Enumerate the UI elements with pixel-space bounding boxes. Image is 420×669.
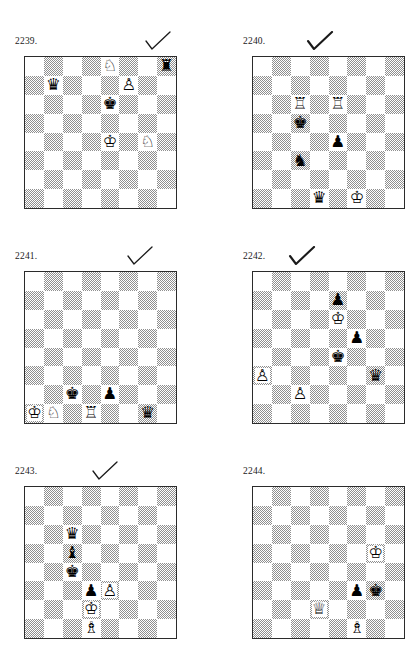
square-h8[interactable]: ♜ [157, 57, 176, 76]
chessboard[interactable]: ♔♟♚♕♗ [252, 486, 405, 639]
square-g1[interactable] [138, 189, 157, 208]
square-d4[interactable] [310, 563, 329, 582]
square-c1[interactable] [63, 404, 82, 423]
square-c6[interactable]: ♖ [291, 95, 310, 114]
square-d3[interactable] [82, 366, 101, 385]
square-f6[interactable] [347, 525, 366, 544]
square-b2[interactable] [272, 385, 291, 404]
square-b3[interactable] [44, 581, 63, 600]
square-b1[interactable] [272, 189, 291, 208]
piece-black-queen-g1[interactable]: ♛ [138, 404, 157, 423]
square-c7[interactable] [291, 506, 310, 525]
square-a7[interactable] [25, 506, 44, 525]
square-a5[interactable] [25, 544, 44, 563]
square-h6[interactable] [385, 310, 404, 329]
square-g7[interactable] [366, 506, 385, 525]
square-h4[interactable] [385, 563, 404, 582]
square-c7[interactable] [63, 506, 82, 525]
square-a1[interactable] [25, 619, 44, 638]
piece-white-knight-b1[interactable]: ♘ [44, 404, 63, 423]
square-e4[interactable]: ♟ [329, 133, 348, 152]
square-f3[interactable] [119, 151, 138, 170]
square-g3[interactable]: ♛ [366, 366, 385, 385]
piece-white-rook-e6[interactable]: ♖ [329, 95, 348, 114]
square-a1[interactable]: ♔ [25, 404, 44, 423]
square-a2[interactable] [25, 600, 44, 619]
square-a3[interactable] [25, 581, 44, 600]
square-f3[interactable] [119, 366, 138, 385]
square-d6[interactable] [310, 95, 329, 114]
square-d8[interactable] [310, 272, 329, 291]
square-h3[interactable] [385, 366, 404, 385]
square-b8[interactable] [44, 57, 63, 76]
piece-black-rook-h8[interactable]: ♜ [157, 57, 176, 76]
square-d5[interactable] [82, 329, 101, 348]
square-h4[interactable] [385, 133, 404, 152]
square-e6[interactable] [101, 310, 120, 329]
piece-white-rook-d1[interactable]: ♖ [82, 404, 101, 423]
piece-black-queen-d1[interactable]: ♛ [310, 189, 329, 208]
square-g1[interactable] [366, 189, 385, 208]
square-d8[interactable] [82, 272, 101, 291]
square-b7[interactable] [44, 291, 63, 310]
square-a7[interactable] [253, 506, 272, 525]
square-d6[interactable] [82, 525, 101, 544]
square-d2[interactable] [310, 170, 329, 189]
square-c8[interactable] [63, 272, 82, 291]
square-d8[interactable] [310, 487, 329, 506]
square-a2[interactable] [253, 170, 272, 189]
square-b6[interactable] [272, 95, 291, 114]
square-e1[interactable] [101, 404, 120, 423]
square-h3[interactable] [385, 581, 404, 600]
square-c2[interactable] [63, 600, 82, 619]
square-g5[interactable] [138, 329, 157, 348]
square-h7[interactable] [157, 291, 176, 310]
piece-black-queen-c6[interactable]: ♛ [63, 525, 82, 544]
square-a6[interactable] [253, 310, 272, 329]
piece-white-king-f1[interactable]: ♔ [347, 189, 366, 208]
square-a4[interactable] [253, 348, 272, 367]
square-a6[interactable] [253, 95, 272, 114]
square-f5[interactable] [119, 329, 138, 348]
square-e1[interactable] [329, 404, 348, 423]
square-h1[interactable] [157, 404, 176, 423]
square-a4[interactable] [25, 348, 44, 367]
square-b3[interactable] [44, 151, 63, 170]
square-d8[interactable] [82, 57, 101, 76]
square-e6[interactable] [101, 525, 120, 544]
square-c1[interactable] [63, 619, 82, 638]
square-a8[interactable] [25, 487, 44, 506]
piece-white-knight-g4[interactable]: ♘ [138, 133, 157, 152]
square-c8[interactable] [63, 487, 82, 506]
piece-black-king-c5[interactable]: ♚ [291, 114, 310, 133]
square-b6[interactable] [44, 525, 63, 544]
square-h1[interactable] [385, 619, 404, 638]
square-a3[interactable] [253, 151, 272, 170]
square-g7[interactable] [366, 291, 385, 310]
square-b5[interactable] [44, 544, 63, 563]
square-e2[interactable] [101, 170, 120, 189]
piece-white-rook-c6[interactable]: ♖ [291, 95, 310, 114]
square-b5[interactable] [272, 114, 291, 133]
square-a2[interactable] [25, 170, 44, 189]
square-h2[interactable] [385, 170, 404, 189]
square-c3[interactable] [63, 151, 82, 170]
square-g2[interactable] [138, 385, 157, 404]
square-a8[interactable] [253, 487, 272, 506]
square-e8[interactable]: ♘ [101, 57, 120, 76]
square-e4[interactable] [329, 563, 348, 582]
square-a2[interactable] [25, 385, 44, 404]
square-f6[interactable] [347, 95, 366, 114]
square-b1[interactable]: ♘ [44, 404, 63, 423]
square-h6[interactable] [157, 310, 176, 329]
square-e8[interactable] [101, 487, 120, 506]
square-d1[interactable] [310, 619, 329, 638]
square-e3[interactable] [101, 366, 120, 385]
square-a3[interactable] [25, 151, 44, 170]
square-c5[interactable] [63, 329, 82, 348]
square-b3[interactable] [272, 366, 291, 385]
square-b4[interactable] [44, 563, 63, 582]
square-d5[interactable] [82, 114, 101, 133]
square-g6[interactable] [138, 310, 157, 329]
square-h5[interactable] [157, 114, 176, 133]
